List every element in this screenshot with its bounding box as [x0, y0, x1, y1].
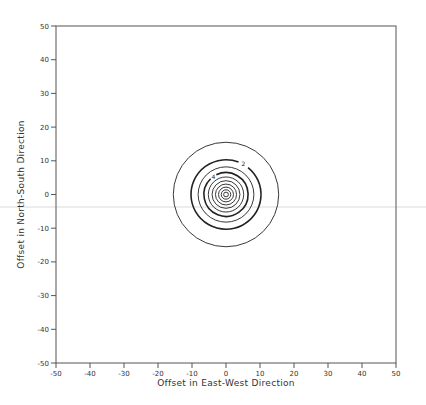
y-tick-label: -40 [38, 326, 49, 334]
y-axis-title: Offset in North-South Direction [16, 120, 26, 269]
y-tick-label: -30 [38, 292, 49, 300]
x-tick-label: -20 [152, 370, 163, 378]
contour-chart: 50403020100-10-20-30-40-50 -50-40-30-20-… [0, 0, 426, 405]
y-axis: 50403020100-10-20-30-40-50 [38, 23, 56, 368]
contour-line [212, 181, 240, 209]
contour-line [224, 192, 229, 197]
x-tick-label: 0 [224, 370, 228, 378]
contour-lines: 24 [173, 142, 278, 246]
x-tick-label: 40 [358, 370, 367, 378]
plot-frame [56, 26, 396, 363]
y-tick-label: 30 [40, 90, 49, 98]
x-tick-label: -50 [50, 370, 61, 378]
y-tick-label: -50 [38, 360, 49, 368]
y-tick-label: -20 [38, 258, 49, 266]
contour-line [173, 142, 278, 246]
y-tick-label: 10 [40, 157, 49, 165]
y-tick-label: 50 [40, 23, 49, 31]
x-axis: -50-40-30-20-1001020304050 [50, 363, 400, 378]
contour-label: 4 [211, 173, 215, 180]
x-tick-label: -40 [84, 370, 95, 378]
x-tick-label: 50 [392, 370, 401, 378]
x-tick-label: 20 [290, 370, 299, 378]
x-tick-label: -30 [118, 370, 129, 378]
y-tick-label: 0 [45, 191, 49, 199]
y-tick-label: 20 [40, 124, 49, 132]
x-tick-label: 30 [324, 370, 333, 378]
x-axis-title: Offset in East-West Direction [157, 378, 295, 388]
contour-label: 2 [242, 160, 246, 167]
y-tick-label: -10 [38, 225, 49, 233]
contour-line [221, 190, 231, 199]
x-tick-label: -10 [186, 370, 197, 378]
contour-line [198, 167, 254, 222]
contour-line [219, 187, 234, 202]
contour-line [191, 160, 261, 229]
x-tick-label: 10 [256, 370, 265, 378]
y-tick-label: 40 [40, 56, 49, 64]
